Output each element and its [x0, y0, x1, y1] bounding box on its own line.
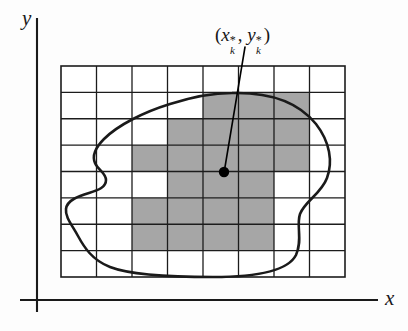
riemann-sum-figure: y x (x*k, y*k)	[0, 0, 408, 331]
x-axis-label: x	[385, 288, 394, 309]
figure-canvas	[0, 0, 408, 331]
shaded-cell	[274, 119, 310, 145]
label-y-var: y	[247, 24, 255, 45]
shaded-cell	[168, 145, 204, 171]
shaded-cell	[274, 145, 310, 171]
sample-point-dot	[219, 167, 229, 177]
label-comma: ,	[238, 24, 248, 45]
shaded-cell	[239, 172, 275, 198]
shaded-cell	[203, 145, 239, 171]
shaded-cell	[203, 224, 239, 250]
shaded-cell	[168, 172, 204, 198]
shaded-cell	[168, 119, 204, 145]
shaded-cell	[168, 198, 204, 224]
shaded-cell	[239, 198, 275, 224]
shaded-cell	[203, 198, 239, 224]
label-x-var: x	[221, 24, 229, 45]
label-close-paren: )	[264, 24, 270, 45]
sample-point-label: (x*k, y*k)	[215, 25, 270, 44]
shaded-cell	[132, 145, 168, 171]
shaded-cell	[239, 224, 275, 250]
shaded-cell	[132, 224, 168, 250]
shaded-cell	[239, 145, 275, 171]
label-x-subscript: k	[230, 45, 235, 56]
label-y-subscript: k	[256, 45, 261, 56]
y-axis-label: y	[22, 8, 31, 29]
shaded-cell	[168, 224, 204, 250]
shaded-cell	[132, 198, 168, 224]
shaded-cell	[239, 119, 275, 145]
